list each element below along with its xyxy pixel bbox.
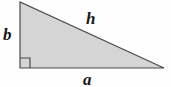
label-leg-b: b	[3, 26, 12, 43]
label-leg-a: a	[83, 71, 92, 87]
right-triangle-figure: b h a	[0, 0, 171, 87]
label-hypotenuse-h: h	[86, 10, 95, 27]
